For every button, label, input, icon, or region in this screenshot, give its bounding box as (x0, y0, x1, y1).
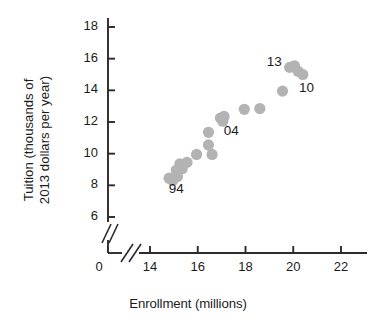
y-tick-label: 14 (0, 81, 98, 96)
y-tick-label: 8 (0, 176, 98, 191)
point-annotation: 10 (299, 80, 314, 95)
y-tick-label: 10 (0, 145, 98, 160)
data-point (239, 104, 250, 115)
data-point (206, 149, 217, 160)
x-tick-label: 22 (321, 259, 361, 274)
data-point (277, 86, 288, 97)
origin-label: 0 (88, 259, 110, 274)
x-tick-label: 14 (130, 259, 170, 274)
y-tick-label: 16 (0, 50, 98, 65)
data-point (191, 149, 202, 160)
y-tick-label: 6 (0, 208, 98, 223)
x-tick-label: 18 (226, 259, 266, 274)
data-point (218, 111, 229, 122)
point-annotation: 13 (267, 54, 282, 69)
y-tick-label: 12 (0, 113, 98, 128)
data-point (297, 69, 308, 80)
data-point (203, 127, 214, 138)
point-annotation: 04 (224, 123, 239, 138)
point-annotation: 94 (169, 181, 184, 196)
data-point (181, 157, 192, 168)
y-tick-label: 18 (0, 18, 98, 33)
data-point (254, 103, 265, 114)
x-tick-label: 16 (178, 259, 218, 274)
x-tick-label: 20 (273, 259, 313, 274)
x-axis-title: Enrollment (millions) (129, 296, 246, 311)
axis-ticks (108, 27, 341, 253)
axes (102, 18, 367, 262)
